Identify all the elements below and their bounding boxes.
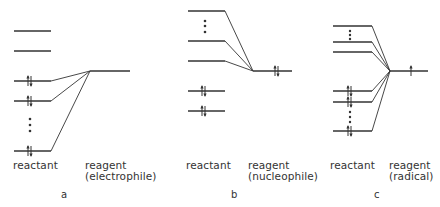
- panel-a: [14, 31, 130, 151]
- reactant-label-b: reactant: [186, 160, 231, 171]
- panel-b: [188, 11, 292, 111]
- reagent-type-c: (radical): [389, 171, 434, 182]
- panel-letter-a: a: [61, 189, 67, 200]
- ellipsis-icon: [204, 20, 207, 34]
- electron-pairs-a: [26, 75, 32, 157]
- interaction-line: [372, 52, 390, 71]
- panel-letter-c: c: [374, 189, 380, 200]
- orbital-diagram: [0, 0, 440, 207]
- reactant-label-c: reactant: [330, 160, 375, 171]
- reagent-type-b: (nucleophile): [248, 171, 318, 182]
- panel-letter-b: b: [231, 189, 237, 200]
- ellipsis-icon: [349, 30, 351, 123]
- ellipsis-icon: [29, 118, 32, 133]
- interaction-line: [372, 42, 390, 71]
- electron-pairs-c: [346, 65, 412, 137]
- interaction-line: [372, 71, 390, 131]
- interaction-line: [372, 71, 390, 102]
- reagent-type-a: (electrophile): [85, 171, 156, 182]
- interaction-line: [372, 26, 390, 71]
- reactant-label-a: reactant: [13, 160, 58, 171]
- interaction-line: [225, 11, 253, 71]
- interaction-line: [225, 41, 253, 71]
- interaction-line: [51, 71, 90, 101]
- interaction-line: [51, 71, 90, 151]
- panel-c: [333, 26, 428, 131]
